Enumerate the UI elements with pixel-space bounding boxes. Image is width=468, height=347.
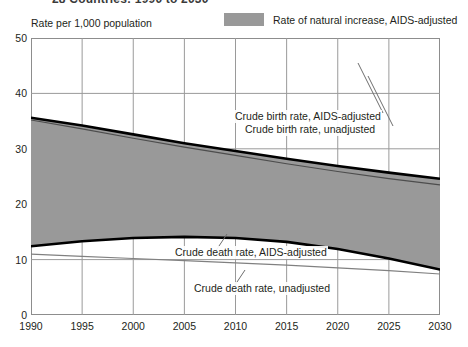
x-tick-2005: 2005 xyxy=(173,320,196,332)
chart-legend: Rate of natural increase, AIDS-adjusted xyxy=(224,13,457,26)
legend-label-natural-increase: Rate of natural increase, AIDS-adjusted xyxy=(273,14,457,26)
y-tick-10: 10 xyxy=(15,254,27,266)
x-tick-2025: 2025 xyxy=(377,320,400,332)
x-tick-1995: 1995 xyxy=(70,320,93,332)
x-tick-2020: 2020 xyxy=(326,320,349,332)
annotation-crude-death-rate-adjusted: Crude death rate, AIDS-adjusted xyxy=(174,246,328,259)
y-tick-50: 50 xyxy=(15,32,27,44)
legend-swatch-natural-increase xyxy=(224,13,264,26)
annotation-crude-death-rate-unadjusted: Crude death rate, unadjusted xyxy=(193,282,331,295)
chart-title: 28 Countries: 1990 to 2030 xyxy=(52,0,452,6)
x-tick-2030: 2030 xyxy=(428,320,451,332)
plot-svg xyxy=(31,38,440,315)
x-tick-1990: 1990 xyxy=(19,320,42,332)
y-axis-caption: Rate per 1,000 population xyxy=(31,17,152,29)
x-tick-2000: 2000 xyxy=(122,320,145,332)
y-tick-30: 30 xyxy=(15,143,27,155)
annotation-crude-birth-rate-adjusted: Crude birth rate, AIDS-adjusted xyxy=(234,110,382,123)
y-tick-20: 20 xyxy=(15,198,27,210)
y-tick-40: 40 xyxy=(15,87,27,99)
plot-area: 01020304050 1990199520002005201020152020… xyxy=(31,38,440,315)
x-tick-2015: 2015 xyxy=(275,320,298,332)
x-tick-2010: 2010 xyxy=(224,320,247,332)
annotation-crude-birth-rate-unadjusted: Crude birth rate, unadjusted xyxy=(244,123,376,136)
